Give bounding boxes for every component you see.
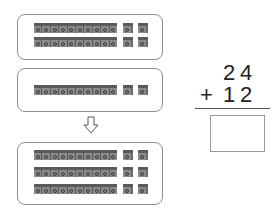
unit-cube bbox=[123, 85, 133, 95]
panel-sum bbox=[17, 142, 163, 205]
unit-cube bbox=[123, 167, 133, 177]
plus-sign: + bbox=[200, 84, 213, 106]
unit-cube bbox=[138, 167, 148, 177]
unit-cube bbox=[123, 150, 133, 160]
ten-rod bbox=[34, 150, 117, 160]
ten-rod bbox=[34, 85, 117, 95]
addend2-ones: 2 bbox=[240, 84, 252, 106]
panel-addend-1 bbox=[17, 14, 163, 60]
unit-cube bbox=[138, 150, 148, 160]
answer-box[interactable] bbox=[210, 115, 265, 152]
addend1-tens: 2 bbox=[223, 62, 235, 84]
unit-cube bbox=[138, 184, 148, 194]
down-arrow-icon bbox=[82, 116, 100, 134]
addend2-tens: 1 bbox=[223, 84, 235, 106]
ten-rod bbox=[34, 184, 117, 194]
ten-rod bbox=[34, 23, 117, 33]
unit-cube bbox=[123, 37, 133, 47]
unit-cube bbox=[123, 23, 133, 33]
unit-cube bbox=[138, 37, 148, 47]
ten-rod bbox=[34, 167, 117, 177]
panel-addend-2 bbox=[17, 68, 163, 112]
unit-cube bbox=[138, 85, 148, 95]
unit-cube bbox=[138, 23, 148, 33]
unit-cube bbox=[123, 184, 133, 194]
sum-line bbox=[195, 108, 270, 109]
ten-rod bbox=[34, 37, 117, 47]
addend1-ones: 4 bbox=[240, 62, 252, 84]
